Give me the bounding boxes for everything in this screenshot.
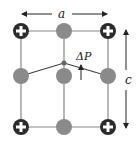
label-delta-p: ΔP — [75, 50, 92, 63]
atom-mid-right — [100, 68, 116, 84]
label-c: c — [125, 73, 132, 87]
label-a: a — [58, 7, 65, 21]
positive-ion-icon — [100, 119, 116, 135]
atom-mid-center — [56, 68, 72, 84]
positive-ion-icon — [13, 119, 29, 135]
crystal-unit-cell-diagram: a c — [0, 0, 140, 147]
positive-ion-icon — [100, 23, 116, 39]
atom-top-center — [56, 23, 72, 39]
atom-bottom-center — [56, 119, 72, 135]
atom-mid-left — [13, 68, 29, 84]
positive-ion-icon — [13, 23, 29, 39]
small-center-atom — [62, 61, 67, 66]
